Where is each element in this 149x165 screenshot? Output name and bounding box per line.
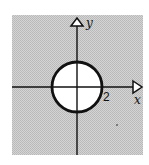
y-axis-label: y — [85, 16, 93, 30]
radius-label: 2 — [103, 90, 110, 104]
x-axis-label: x — [134, 93, 141, 107]
speck — [116, 124, 118, 126]
circle-graph: y x 2 — [0, 0, 149, 165]
